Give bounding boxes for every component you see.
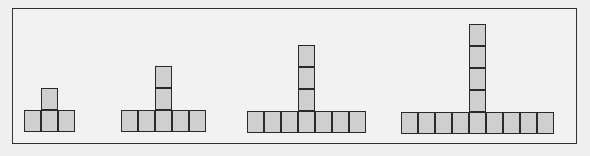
column-tile <box>298 45 315 67</box>
column-tile <box>298 89 315 111</box>
base-tile <box>349 111 366 133</box>
column-tile <box>155 66 172 88</box>
base-tile <box>264 111 281 133</box>
column-tile <box>469 46 486 68</box>
base-tile <box>537 112 554 134</box>
column-tile <box>469 24 486 46</box>
base-tile <box>315 111 332 133</box>
base-tile <box>138 110 155 132</box>
column-tile <box>298 67 315 89</box>
base-tile <box>189 110 206 132</box>
column-tile <box>155 88 172 110</box>
base-tile <box>418 112 435 134</box>
base-tile <box>452 112 469 134</box>
base-tile <box>121 110 138 132</box>
column-tile <box>41 88 58 110</box>
base-tile <box>486 112 503 134</box>
base-tile <box>435 112 452 134</box>
base-tile <box>520 112 537 134</box>
base-tile <box>469 112 486 134</box>
base-tile <box>401 112 418 134</box>
column-tile <box>469 68 486 90</box>
base-tile <box>41 110 58 132</box>
base-tile <box>172 110 189 132</box>
base-tile <box>24 110 41 132</box>
base-tile <box>503 112 520 134</box>
base-tile <box>155 110 172 132</box>
base-tile <box>298 111 315 133</box>
base-tile <box>247 111 264 133</box>
base-tile <box>332 111 349 133</box>
column-tile <box>469 90 486 112</box>
base-tile <box>58 110 75 132</box>
base-tile <box>281 111 298 133</box>
